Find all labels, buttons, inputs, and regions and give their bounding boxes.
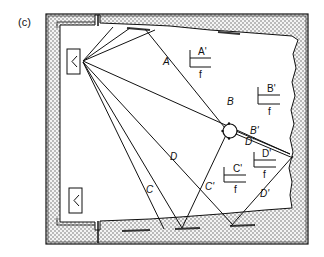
label-c-prime-ray: C' [205, 181, 215, 192]
label-c: C [146, 184, 154, 195]
label-d-prime-1: D' [245, 136, 255, 147]
svg-text:f: f [199, 69, 202, 80]
room-walls [46, 14, 308, 244]
label-a: A [162, 56, 170, 67]
svg-text:D': D' [262, 148, 271, 159]
label-b-prime: B' [250, 125, 260, 136]
svg-text:B': B' [267, 83, 276, 94]
svg-text:f: f [234, 184, 237, 195]
svg-text:f: f [268, 106, 271, 117]
label-d: D [170, 151, 177, 162]
room-diagram: A B B' D' C D C' D' A' f B' f C' f D' f [0, 0, 324, 257]
svg-text:A': A' [198, 46, 207, 57]
speaker-top [67, 49, 80, 74]
svg-text:C': C' [233, 163, 242, 174]
speaker-bottom [69, 188, 82, 213]
svg-text:f: f [263, 169, 266, 180]
label-b: B [227, 96, 234, 107]
label-d-prime-2: D' [260, 188, 270, 199]
